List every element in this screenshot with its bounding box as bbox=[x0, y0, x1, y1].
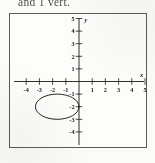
x-tick-labels: -4-3-2-112345 bbox=[24, 86, 147, 93]
y-tick-label: 5 bbox=[71, 15, 74, 22]
y-tick-label: 2 bbox=[71, 53, 74, 60]
y-axis-label: y bbox=[84, 16, 88, 23]
y-tick-label: -2 bbox=[69, 103, 74, 110]
y-tick-label: 3 bbox=[71, 40, 74, 47]
x-axis-label: x bbox=[139, 71, 144, 78]
x-tick-label: -3 bbox=[37, 86, 42, 93]
figure-page: and 1 vert. -4-3-2-112345 54321-1-2-3-4 … bbox=[0, 0, 155, 163]
x-tick-label: -4 bbox=[24, 86, 29, 93]
x-tick-label: 1 bbox=[91, 86, 94, 93]
coordinate-plot: -4-3-2-112345 54321-1-2-3-4 y x bbox=[10, 14, 148, 149]
axis-lines bbox=[14, 18, 144, 145]
x-tick-label: 3 bbox=[117, 86, 120, 93]
x-tick-label: 5 bbox=[143, 86, 146, 93]
figure-frame: -4-3-2-112345 54321-1-2-3-4 y x bbox=[9, 13, 147, 148]
x-tick-label: -2 bbox=[50, 86, 55, 93]
x-tick-label: -1 bbox=[63, 86, 68, 93]
page-header-text: and 1 vert. bbox=[18, 0, 138, 9]
y-tick-label: -4 bbox=[69, 128, 74, 135]
y-tick-label: 1 bbox=[71, 65, 74, 72]
y-tick-label: 4 bbox=[71, 27, 74, 34]
x-tick-label: 2 bbox=[104, 86, 107, 93]
x-tick-label: 4 bbox=[130, 86, 133, 93]
